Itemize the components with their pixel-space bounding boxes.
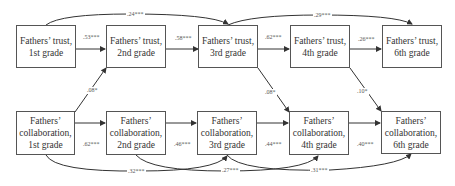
node-label: Fathers’ trust, 4th grade xyxy=(294,35,346,59)
coef-t3-t6: .29*** xyxy=(313,12,332,19)
node-collaboration-4th-grade: Fathers’ collaboration, 4th grade xyxy=(289,111,349,155)
coef-t3-c4: .08* xyxy=(264,89,277,96)
coef-c1-t2: .08* xyxy=(86,87,99,94)
node-label: Fathers’ trust, 1st grade xyxy=(20,35,72,59)
coef-t1-t2: .53*** xyxy=(82,34,101,41)
coef-c1-c3: .32*** xyxy=(127,168,146,175)
coef-c4-c6: .40*** xyxy=(356,141,375,148)
node-collaboration-2nd-grade: Fathers’ collaboration, 2nd grade xyxy=(106,111,166,155)
coef-c3-c6: .31*** xyxy=(310,167,329,174)
node-label: Fathers’ trust, 6th grade xyxy=(386,35,438,59)
coef-c3-c4: .44*** xyxy=(264,141,283,148)
node-trust-2nd-grade: Fathers’ trust, 2nd grade xyxy=(106,25,166,68)
node-trust-6th-grade: Fathers’ trust, 6th grade xyxy=(382,25,442,68)
coef-t3-t4: .62*** xyxy=(264,34,283,41)
node-trust-4th-grade: Fathers’ trust, 4th grade xyxy=(290,25,350,68)
coef-c2-c4: .27*** xyxy=(221,167,240,174)
node-label: Fathers’ collaboration, 6th grade xyxy=(385,115,438,151)
node-label: Fathers’ collaboration, 3rd grade xyxy=(201,115,254,151)
node-label: Fathers’ trust, 2nd grade xyxy=(110,35,162,59)
node-collaboration-3rd-grade: Fathers’ collaboration, 3rd grade xyxy=(197,111,257,155)
node-label: Fathers’ collaboration, 2nd grade xyxy=(110,115,163,151)
node-trust-1st-grade: Fathers’ trust, 1st grade xyxy=(16,25,76,68)
node-label: Fathers’ collaboration, 4th grade xyxy=(293,115,346,151)
coef-t4-c6: .10* xyxy=(356,88,369,95)
coef-t2-t3: .58*** xyxy=(174,35,193,42)
coef-t1-t3: .24*** xyxy=(126,11,145,18)
coef-c2-c3: .46*** xyxy=(173,141,192,148)
node-collaboration-6th-grade: Fathers’ collaboration, 6th grade xyxy=(381,111,441,154)
coef-c1-c2: .62*** xyxy=(82,141,101,148)
node-collaboration-1st-grade: Fathers’ collaboration, 1st grade xyxy=(16,111,75,155)
node-trust-3rd-grade: Fathers’ trust, 3rd grade xyxy=(198,25,258,68)
node-label: Fathers’ trust, 3rd grade xyxy=(202,35,254,59)
coef-t4-t6: .26*** xyxy=(357,36,376,43)
node-label: Fathers’ collaboration, 1st grade xyxy=(19,115,72,151)
